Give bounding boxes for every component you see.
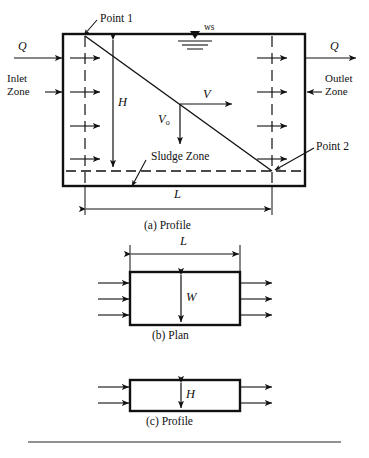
inflow-label: Q [18, 40, 27, 53]
velocity-vo-label: Vo [158, 113, 170, 127]
sludge-zone-leader [132, 160, 146, 186]
outlet-zone-label-line2: Zone [325, 86, 348, 98]
panel-a-caption: (a) Profile [144, 219, 191, 231]
tank-outline-profile [63, 34, 305, 186]
tank-outline-plan [130, 272, 240, 325]
panel-b-plan [98, 245, 272, 325]
point-2-label: Point 2 [316, 140, 349, 152]
outflow-label: Q [330, 40, 339, 53]
width-label-b: W [186, 291, 196, 305]
velocity-v-label: V [203, 88, 211, 102]
panel-c-profile [98, 380, 272, 411]
outlet-zone-label-line1: Outlet [325, 73, 353, 85]
inlet-zone-label-line2: Zone [7, 86, 30, 98]
velocity-vo-base: V [158, 112, 166, 126]
length-label-b: L [180, 235, 187, 249]
inlet-zone-label-line1: Inlet [7, 73, 27, 85]
figure-container: Q Q Inlet Zone Outlet Zone ws Point 1 Po… [0, 0, 369, 458]
water-surface-label: ws [204, 22, 215, 32]
depth-label-c: H [186, 388, 195, 402]
tank-outline-profile-c [130, 380, 240, 411]
panel-c-caption: (c) Profile [146, 415, 193, 427]
length-label-a: L [174, 188, 181, 202]
panel-b-caption: (b) Plan [152, 329, 189, 341]
velocity-vo-subscript: o [166, 118, 170, 127]
depth-label-a: H [118, 96, 127, 110]
point-1-leader [84, 20, 97, 35]
point-1-label: Point 1 [100, 12, 133, 24]
panel-a-profile [14, 20, 356, 215]
sludge-zone-label: Sludge Zone [151, 150, 209, 162]
